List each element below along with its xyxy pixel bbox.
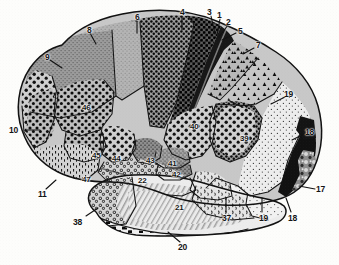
label-8: 8	[87, 26, 92, 35]
label-1: 1	[217, 11, 222, 20]
label-18: 18	[305, 128, 314, 137]
label-18-lower: 18	[288, 214, 297, 223]
label-7: 7	[256, 41, 261, 50]
label-5: 5	[238, 27, 243, 36]
label-3: 3	[207, 8, 212, 17]
label-2: 2	[226, 18, 231, 27]
brodmann-map-figure: 3 1 2 4 5 6 7 8 9 10 11 17 18 18 19 19 2…	[0, 0, 339, 265]
label-37: 37	[222, 214, 231, 223]
label-22: 22	[138, 177, 147, 185]
label-19-lower: 19	[259, 214, 268, 223]
label-38: 38	[73, 218, 82, 227]
label-39: 39	[240, 135, 249, 143]
label-10: 10	[9, 126, 18, 135]
label-17: 17	[316, 185, 325, 194]
label-11: 11	[38, 190, 47, 199]
label-44: 44	[112, 155, 121, 163]
label-45: 45	[92, 152, 101, 160]
label-21: 21	[175, 204, 184, 212]
brain-lateral-diagram	[0, 0, 339, 265]
label-46: 46	[82, 104, 91, 112]
label-42: 42	[172, 171, 181, 179]
label-41: 41	[168, 160, 177, 168]
label-19: 19	[284, 90, 293, 99]
label-4: 4	[180, 8, 185, 17]
label-20: 20	[178, 243, 187, 252]
label-43: 43	[146, 157, 155, 165]
label-9: 9	[45, 53, 50, 62]
label-6: 6	[135, 13, 140, 22]
label-40: 40	[190, 123, 199, 131]
label-47: 47	[82, 176, 91, 184]
